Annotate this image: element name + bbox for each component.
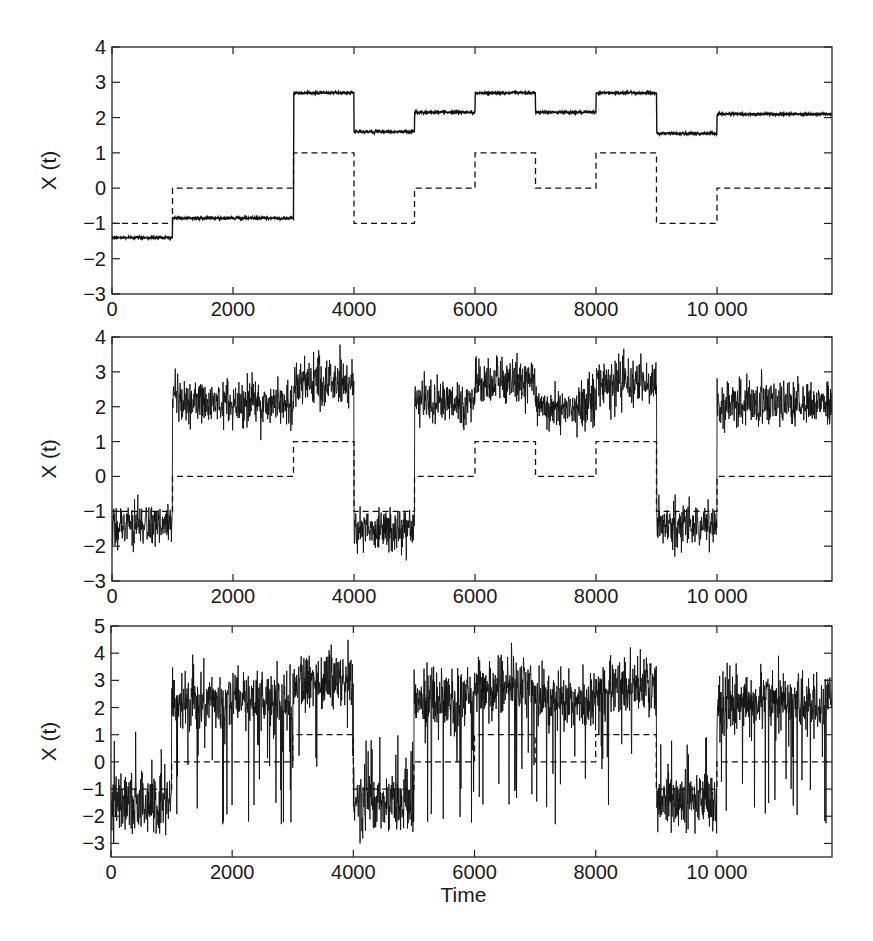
plot-area bbox=[112, 90, 832, 240]
y-tick-label: 0 bbox=[94, 751, 105, 773]
x-tick-label: 8000 bbox=[573, 861, 618, 883]
x-tick-label: 6000 bbox=[453, 585, 498, 607]
axes-frame bbox=[112, 47, 832, 294]
noisy-signal-line bbox=[112, 90, 832, 240]
dashed-state-line bbox=[112, 153, 832, 224]
x-tick-label: 8000 bbox=[574, 585, 619, 607]
y-tick-label: 4 bbox=[94, 642, 105, 664]
x-tick-label: 0 bbox=[106, 298, 117, 320]
x-tick-label: 10 000 bbox=[686, 585, 747, 607]
y-tick-label: 3 bbox=[95, 361, 106, 383]
x-tick-label: 6000 bbox=[452, 861, 497, 883]
y-tick-label: 0 bbox=[95, 177, 106, 199]
x-tick-label: 10 000 bbox=[686, 861, 747, 883]
y-tick-label: −1 bbox=[83, 212, 106, 234]
y-tick-label: −3 bbox=[82, 832, 105, 854]
x-tick-label: 2000 bbox=[211, 585, 256, 607]
x-tick-label: 2000 bbox=[211, 298, 256, 320]
x-tick-label: 2000 bbox=[210, 861, 255, 883]
x-tick-label: 6000 bbox=[453, 298, 498, 320]
figure-canvas: 0200040006000800010 000−3−2−101234X (t) … bbox=[0, 0, 873, 941]
x-axis-label: Time bbox=[441, 883, 487, 906]
chart-panel-middle: 0200040006000800010 000−3−2−101234X (t) bbox=[37, 326, 832, 607]
y-axis-label: X (t) bbox=[37, 722, 60, 762]
y-axis-label: X (t) bbox=[37, 151, 60, 191]
chart-panel-bottom: 0200040006000800010 000−3−2−1012345X (t)… bbox=[37, 615, 832, 906]
x-tick-label: 4000 bbox=[331, 861, 376, 883]
y-tick-label: 2 bbox=[95, 396, 106, 418]
y-tick-label: 1 bbox=[95, 142, 106, 164]
y-tick-label: −3 bbox=[83, 570, 106, 592]
noisy-signal-line bbox=[112, 345, 832, 561]
y-tick-label: 3 bbox=[95, 71, 106, 93]
plot-area bbox=[111, 640, 832, 844]
plot-area bbox=[112, 345, 832, 561]
x-tick-label: 4000 bbox=[332, 585, 377, 607]
y-tick-label: 1 bbox=[94, 724, 105, 746]
y-tick-label: −1 bbox=[83, 500, 106, 522]
dashed-state-line bbox=[112, 442, 832, 512]
y-tick-label: −1 bbox=[82, 778, 105, 800]
y-tick-label: −2 bbox=[82, 805, 105, 827]
y-tick-label: 3 bbox=[94, 669, 105, 691]
x-tick-label: 0 bbox=[106, 585, 117, 607]
y-tick-label: 1 bbox=[95, 431, 106, 453]
x-tick-label: 0 bbox=[105, 861, 116, 883]
y-tick-label: 0 bbox=[95, 465, 106, 487]
y-tick-label: −2 bbox=[83, 535, 106, 557]
chart-panel-top: 0200040006000800010 000−3−2−101234X (t) bbox=[37, 36, 832, 320]
y-tick-label: 4 bbox=[95, 36, 106, 58]
y-tick-label: 2 bbox=[95, 107, 106, 129]
y-axis-label: X (t) bbox=[37, 439, 60, 479]
y-tick-label: 4 bbox=[95, 326, 106, 348]
y-tick-label: 5 bbox=[94, 615, 105, 637]
y-tick-label: −3 bbox=[83, 283, 106, 305]
x-tick-label: 8000 bbox=[574, 298, 619, 320]
x-tick-label: 4000 bbox=[332, 298, 377, 320]
noisy-signal-line bbox=[111, 640, 832, 844]
axes-frame bbox=[112, 337, 832, 581]
y-tick-label: −2 bbox=[83, 248, 106, 270]
y-tick-label: 2 bbox=[94, 697, 105, 719]
x-tick-label: 10 000 bbox=[686, 298, 747, 320]
